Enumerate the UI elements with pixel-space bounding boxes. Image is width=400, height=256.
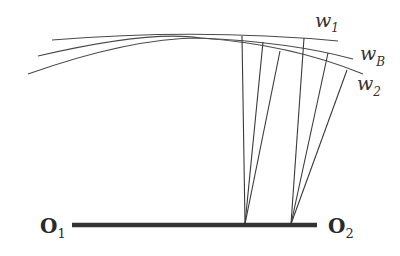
- wavefront-w2-curve: [28, 38, 363, 74]
- ray-1b: [245, 42, 263, 224]
- label-w1: w1: [315, 9, 339, 35]
- ray-fan-2: [291, 38, 347, 224]
- label-wB: wB: [360, 42, 385, 69]
- label-o1: O1: [40, 214, 66, 241]
- label-o2: O2: [328, 214, 354, 241]
- ray-fan-1: [242, 36, 280, 224]
- label-w2: w2: [357, 72, 381, 99]
- wavefront-diagram: w1 wB w2 O1 O2: [0, 0, 400, 256]
- ray-1a: [242, 36, 245, 224]
- ray-1c: [245, 51, 280, 224]
